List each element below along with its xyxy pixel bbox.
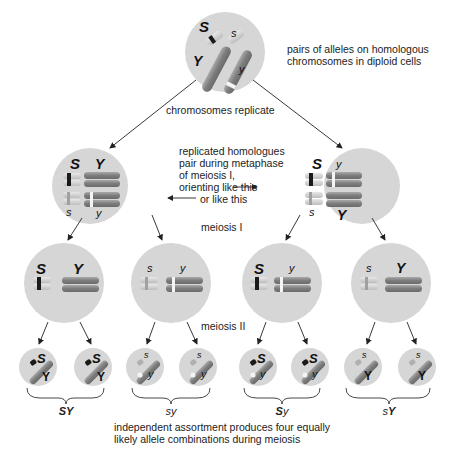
allele-g4b: y	[201, 368, 207, 380]
braces	[27, 388, 430, 404]
meiosis1-cell-sY	[351, 243, 431, 323]
metaphase-cell-left	[52, 148, 128, 224]
meiosis1-cell-Sy	[242, 243, 322, 323]
allele-g5a: S	[257, 351, 266, 366]
group-label-sY: sY	[359, 405, 419, 417]
allele-g8a: s	[416, 350, 421, 360]
group3-second: y	[283, 405, 289, 417]
meiosis1-label: meiosis I	[201, 221, 242, 233]
group-label-sy: sy	[141, 405, 201, 417]
group4-second: Y	[388, 405, 395, 417]
allele-g2b: Y	[97, 370, 105, 384]
allele-left-meta-2: Y	[95, 156, 104, 172]
allele-g3a: s	[144, 350, 149, 360]
allele-m1-3a: S	[254, 260, 264, 277]
gametes	[19, 348, 436, 386]
allele-m1-1a: S	[36, 260, 46, 277]
allele-m1-1b: Y	[73, 260, 83, 277]
allele-g1a: S	[37, 351, 46, 366]
allele-g7b: Y	[364, 369, 372, 383]
group-label-SY: SY	[36, 405, 96, 417]
allele-g6a: S	[309, 351, 318, 366]
meiosis2-label: meiosis II	[201, 320, 245, 332]
allele-g1b: Y	[42, 370, 50, 384]
allele-m1-4a: s	[366, 262, 372, 274]
bottom-caption-line1: independent assortment produces four equ…	[114, 421, 330, 433]
allele-s-top: s	[231, 27, 237, 39]
group2-second: y	[171, 405, 177, 417]
top-caption-line1: pairs of alleles on homologous	[287, 43, 429, 55]
metaphase-line1: replicated homologues	[179, 145, 285, 157]
allele-g4a: s	[197, 350, 202, 360]
allele-left-meta-1: S	[70, 155, 80, 172]
allele-left-meta-3: s	[66, 206, 72, 218]
allele-Y-top: Y	[193, 53, 202, 69]
metaphase-line4: orienting like this	[179, 181, 285, 193]
meiosis1-cell-SY	[24, 243, 104, 323]
bottom-caption-line2: likely allele combinations during meiosi…	[114, 433, 330, 445]
allele-g3b: y	[148, 368, 154, 380]
meiosis-diagram: pairs of alleles on homologous chromosom…	[0, 0, 452, 449]
top-caption: pairs of alleles on homologous chromosom…	[287, 43, 429, 67]
allele-right-meta-2: y	[336, 158, 342, 170]
allele-g6b: y	[312, 368, 318, 380]
meiosis1-cell-sy	[131, 243, 211, 323]
allele-left-meta-4: y	[96, 207, 102, 219]
allele-m1-2b: y	[180, 262, 186, 274]
allele-right-meta-3: s	[309, 206, 315, 218]
allele-right-meta-1: S	[312, 155, 322, 172]
group1-first: S	[59, 405, 66, 417]
group-label-Sy: Sy	[252, 405, 312, 417]
metaphase-line5: or like this	[179, 193, 285, 205]
metaphase-line2: pair during metaphase	[179, 157, 285, 169]
group1-second: Y	[66, 405, 73, 417]
top-caption-line2: chromosomes in diploid cells	[287, 55, 429, 67]
bottom-caption: independent assortment produces four equ…	[114, 421, 330, 445]
metaphase-line3: of meiosis I,	[179, 169, 285, 181]
metaphase-caption: replicated homologues pair during metaph…	[179, 145, 285, 205]
allele-m1-2a: s	[147, 262, 153, 274]
group3-first: S	[276, 405, 283, 417]
allele-m1-4b: Y	[396, 260, 405, 276]
allele-g8b: Y	[418, 369, 426, 383]
allele-right-meta-4: Y	[337, 207, 346, 223]
replicate-label: chromosomes replicate	[166, 104, 275, 116]
allele-g5b: y	[260, 368, 266, 380]
allele-y-top: y	[239, 63, 245, 75]
allele-g7a: s	[362, 350, 367, 360]
allele-m1-3b: y	[289, 262, 295, 274]
allele-S-top: S	[199, 18, 209, 35]
allele-g2a: S	[92, 351, 101, 366]
